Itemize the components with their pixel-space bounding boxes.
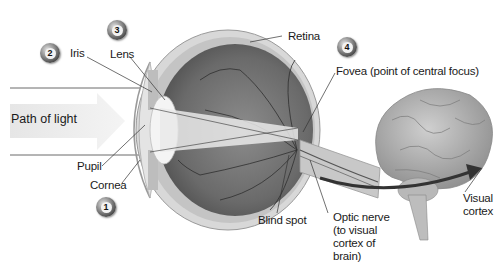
path-of-light-label: Path of light [11,112,77,126]
label-optic-nerve: Optic nerve (to visual cortex of brain) [333,211,403,263]
label-visual-cortex: Visual cortex [463,192,497,218]
label-pupil: Pupil [77,160,102,173]
badge-2: 2 [40,43,60,63]
label-iris: Iris [70,47,85,60]
brain-stem [408,195,428,240]
optic-nerve [300,140,380,198]
badge-3: 3 [107,20,127,40]
eye-diagram: Path of light 2 3 4 1 Iris Lens Retina F… [0,0,497,265]
eye-illustration [0,0,497,265]
label-cornea: Cornea [90,179,127,192]
label-lens: Lens [110,48,134,61]
label-blind-spot: Blind spot [258,214,307,227]
label-fovea: Fovea (point of central focus) [336,65,479,78]
badge-4: 4 [337,37,357,57]
badge-1: 1 [96,197,116,217]
label-retina: Retina [288,30,320,43]
